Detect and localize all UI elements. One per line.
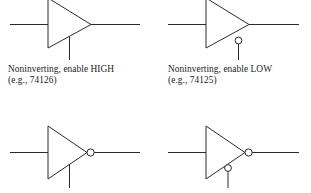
caption-top-left-line2: (e.g., 74126) xyxy=(8,75,114,86)
gate-bottom-right xyxy=(168,126,299,188)
caption-top-left-line1: Noninverting, enable HIGH xyxy=(8,64,114,75)
buffer-triangle-top-right xyxy=(206,0,249,48)
caption-top-right: Noninverting, enable LOW (e.g., 74125) xyxy=(168,64,272,86)
inverter-triangle-bottom-left xyxy=(48,126,87,179)
caption-top-right-line1: Noninverting, enable LOW xyxy=(168,64,272,75)
output-bubble-bottom-left xyxy=(87,149,94,156)
schematic-canvas xyxy=(0,0,311,193)
tristate-buffer-figure: Noninverting, enable HIGH (e.g., 74126) … xyxy=(0,0,311,193)
inverter-triangle-bottom-right xyxy=(206,126,245,179)
caption-top-left: Noninverting, enable HIGH (e.g., 74126) xyxy=(8,64,114,86)
gate-top-left xyxy=(10,0,140,60)
enable-bubble-bottom-right xyxy=(225,165,232,172)
gate-top-right xyxy=(168,0,299,60)
output-bubble-bottom-right xyxy=(245,149,252,156)
gate-bottom-left xyxy=(10,126,140,188)
caption-top-right-line2: (e.g., 74125) xyxy=(168,75,272,86)
enable-bubble-top-right xyxy=(235,37,242,44)
